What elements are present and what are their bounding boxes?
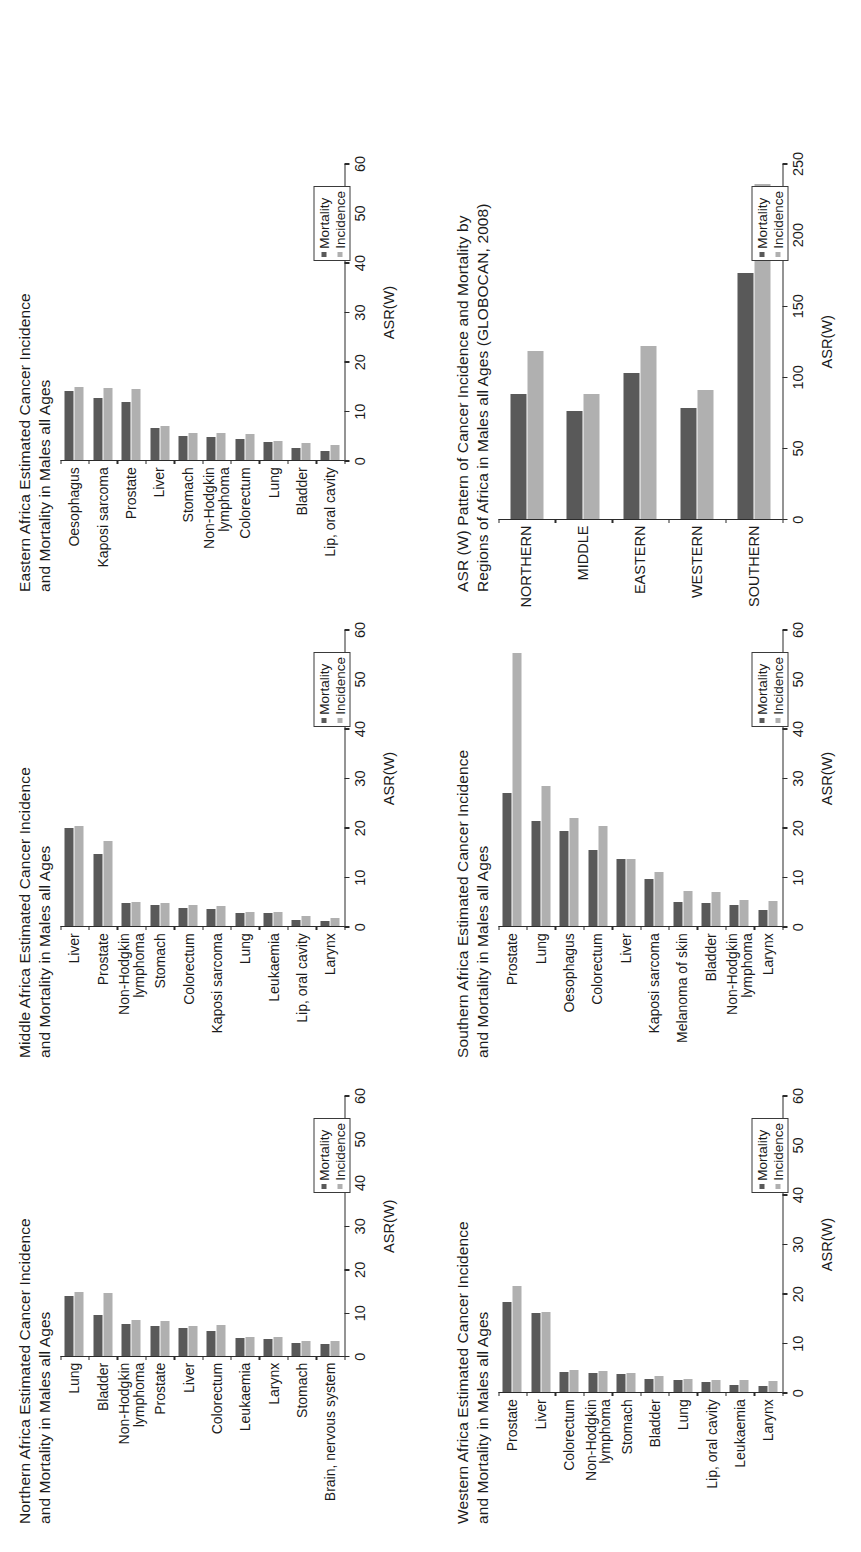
value-axis-tick-label: 30 xyxy=(351,305,367,321)
value-axis-tick xyxy=(782,1244,787,1245)
value-axis-tick-label: 0 xyxy=(789,923,805,931)
chart-legend[interactable]: MortalityIncidence xyxy=(751,186,787,261)
category-label: Oesophagus xyxy=(554,927,582,1058)
bar-mortality xyxy=(93,854,102,926)
value-axis-tick-label: 40 xyxy=(351,1175,367,1191)
legend-swatch-icon xyxy=(759,252,764,257)
category-label: Kaposi sarcoma xyxy=(639,927,667,1058)
bar-incidence xyxy=(512,653,521,926)
category-axis-ticks xyxy=(498,519,782,523)
chart-legend[interactable]: MortalityIncidence xyxy=(751,1118,787,1193)
legend-item-incidence[interactable]: Incidence xyxy=(332,657,347,723)
value-axis: 0102030405060ASR(W) xyxy=(344,164,396,461)
bar-group xyxy=(230,164,258,460)
value-axis-tick-label: 60 xyxy=(351,156,367,172)
bar-mortality xyxy=(235,439,244,460)
chart-legend[interactable]: MortalityIncidence xyxy=(751,652,787,727)
legend-swatch-icon xyxy=(321,1184,326,1189)
legend-label: Incidence xyxy=(332,1123,347,1181)
category-label: Brain, nervous system xyxy=(315,1357,343,1524)
bar-incidence xyxy=(245,434,254,460)
bar-group xyxy=(696,630,724,926)
category-label: Bladder xyxy=(696,927,724,1058)
bar-incidence xyxy=(330,445,339,460)
bars-container xyxy=(60,630,344,927)
chart-legend[interactable]: MortalityIncidence xyxy=(313,652,349,727)
bar-mortality xyxy=(701,1382,710,1392)
value-axis-tick xyxy=(344,411,349,412)
value-axis: 0102030405060ASR(W) xyxy=(782,1096,834,1393)
legend-item-incidence[interactable]: Incidence xyxy=(332,1123,347,1189)
bar-incidence xyxy=(512,1286,521,1392)
chart-legend[interactable]: MortalityIncidence xyxy=(313,186,349,261)
value-axis-tick-label: 20 xyxy=(351,354,367,370)
chart-legend[interactable]: MortalityIncidence xyxy=(313,1118,349,1193)
legend-item-incidence[interactable]: Incidence xyxy=(770,657,785,723)
value-axis-tick xyxy=(782,377,787,378)
legend-item-incidence[interactable]: Incidence xyxy=(332,191,347,257)
bars-container xyxy=(498,1096,782,1393)
category-label: Liver xyxy=(60,927,88,1058)
bar-mortality xyxy=(566,411,582,519)
legend-item-mortality[interactable]: Mortality xyxy=(754,657,769,723)
legend-item-incidence[interactable]: Incidence xyxy=(770,1123,785,1189)
value-axis-tick xyxy=(782,1293,787,1294)
axis-title: ASR(W) xyxy=(380,630,396,927)
scanned-figure-page: Northern Africa Estimated Cancer Inciden… xyxy=(0,0,861,1552)
category-label: MIDDLE xyxy=(554,520,611,592)
value-axis-tick-label: 10 xyxy=(351,1305,367,1321)
value-axis-tick-label: 0 xyxy=(351,923,367,931)
value-axis-tick-label: 40 xyxy=(789,721,805,737)
legend-item-mortality[interactable]: Mortality xyxy=(316,191,331,257)
category-label: Colorectum xyxy=(554,1393,582,1524)
category-label: Stomach xyxy=(173,461,201,592)
bar-incidence xyxy=(527,351,543,518)
chart-northern-africa: LungBladderNon-Hodgkin lymphomaProstateL… xyxy=(60,1096,400,1524)
bar-incidence xyxy=(160,426,169,461)
bar-group xyxy=(145,164,173,460)
plot-area: LungBladderNon-Hodgkin lymphomaProstateL… xyxy=(60,1096,344,1524)
legend-item-incidence[interactable]: Incidence xyxy=(770,191,785,257)
bar-incidence xyxy=(739,1380,748,1392)
bar-mortality xyxy=(680,408,696,519)
panel-regions-summary: ASR (W) Pattern of Cancer Incidence and … xyxy=(452,164,852,592)
legend-swatch-icon xyxy=(775,718,780,723)
legend-label: Mortality xyxy=(754,1130,769,1181)
value-axis-tick-label: 50 xyxy=(789,1137,805,1153)
bar-incidence xyxy=(301,443,310,460)
bar-incidence xyxy=(598,1371,607,1392)
category-label: Bladder xyxy=(88,1357,116,1524)
bar-incidence xyxy=(273,912,282,926)
bar-group xyxy=(116,630,144,926)
value-axis-tick xyxy=(782,778,787,779)
legend-item-mortality[interactable]: Mortality xyxy=(754,1123,769,1189)
value-axis-tick-label: 40 xyxy=(789,1187,805,1203)
category-label: Non-Hodgkin lymphoma xyxy=(116,927,145,1058)
bar-mortality xyxy=(758,910,767,926)
panel-northern-africa: Northern Africa Estimated Cancer Inciden… xyxy=(14,1096,414,1524)
bar-incidence xyxy=(626,1373,635,1392)
bar-mortality xyxy=(729,1385,738,1392)
bars-container xyxy=(498,164,782,520)
legend-item-mortality[interactable]: Mortality xyxy=(316,1123,331,1189)
bar-incidence xyxy=(301,916,310,926)
bar-incidence xyxy=(654,1376,663,1392)
bar-group xyxy=(287,1096,315,1356)
value-axis-tick xyxy=(344,1095,349,1096)
bar-mortality xyxy=(673,902,682,926)
value-axis-tick-label: 10 xyxy=(351,870,367,886)
legend-item-mortality[interactable]: Mortality xyxy=(754,191,769,257)
bar-group xyxy=(60,1096,88,1356)
chart-middle-africa: LiverProstateNon-Hodgkin lymphomaStomach… xyxy=(60,630,400,1058)
value-axis-tick-label: 30 xyxy=(789,1237,805,1253)
bar-mortality xyxy=(729,905,738,926)
category-label: Lung xyxy=(259,461,287,592)
value-axis-tick-label: 60 xyxy=(789,622,805,638)
legend-item-mortality[interactable]: Mortality xyxy=(316,657,331,723)
bar-mortality xyxy=(64,828,73,926)
value-axis-tick-label: 50 xyxy=(789,671,805,687)
legend-label: Incidence xyxy=(332,657,347,715)
value-axis-tick xyxy=(782,877,787,878)
bar-incidence xyxy=(188,905,197,926)
legend-label: Mortality xyxy=(316,664,331,715)
